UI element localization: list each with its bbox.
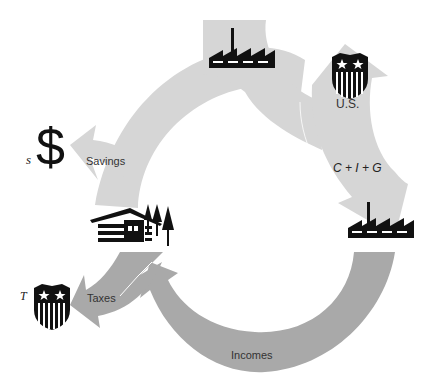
savings-flow-label: Savings [86,155,125,167]
incomes-flow-label: Incomes [231,349,273,361]
taxes-variable-label: T [20,289,27,304]
us-shield-icon [330,53,370,99]
circular-flow-diagram: U.S. C + I + G s $ Savings Taxes T [0,0,431,391]
house-with-trees-icon [90,204,180,248]
savings-variable-label: s [26,152,31,168]
taxes-flow-label: Taxes [87,292,116,304]
dollar-sign-icon: $ [36,115,65,179]
us-label: U.S. [336,97,359,111]
factory-icon [209,28,275,68]
us-shield-icon [32,283,72,331]
factory-icon [348,202,414,238]
spending-flow-label: C + I + G [333,161,382,175]
